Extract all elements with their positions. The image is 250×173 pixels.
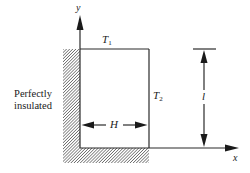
width-dimension-label: H xyxy=(110,119,118,130)
right-boundary-temperature-label: T2 xyxy=(153,90,163,103)
x-axis-label: x xyxy=(233,153,237,163)
y-axis-label: y xyxy=(76,3,80,13)
height-dimension-label: l xyxy=(202,91,205,102)
insulated-label-line1: Perfectly xyxy=(10,88,56,100)
top-boundary-temperature-label: T1 xyxy=(102,34,112,47)
insulated-wall-hatching xyxy=(63,49,149,163)
t1-subscript: 1 xyxy=(108,39,112,47)
arrow-up-icon xyxy=(201,50,208,63)
region-boundary xyxy=(80,49,149,148)
arrow-left-icon xyxy=(82,122,95,129)
arrow-down-icon xyxy=(201,134,208,147)
t2-subscript: 2 xyxy=(159,95,163,103)
y-axis-arrowhead-icon xyxy=(77,15,84,30)
arrow-right-icon xyxy=(135,122,148,129)
x-axis-arrowhead-icon xyxy=(225,145,239,152)
insulated-wall-label: Perfectly insulated xyxy=(10,88,56,112)
heat-conduction-diagram xyxy=(0,0,250,173)
insulated-label-line2: insulated xyxy=(10,100,56,112)
